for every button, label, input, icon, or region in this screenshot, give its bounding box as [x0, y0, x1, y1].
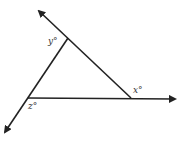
diagram-lines	[0, 0, 187, 143]
line-top-right-side	[39, 11, 131, 98]
line-base	[28, 98, 175, 99]
angle-label-y: y°	[48, 37, 58, 46]
line-left-side	[5, 38, 68, 132]
angle-label-z: z°	[28, 102, 37, 111]
triangle-diagram: y° z° x°	[0, 0, 187, 143]
angle-label-x: x°	[133, 86, 143, 95]
